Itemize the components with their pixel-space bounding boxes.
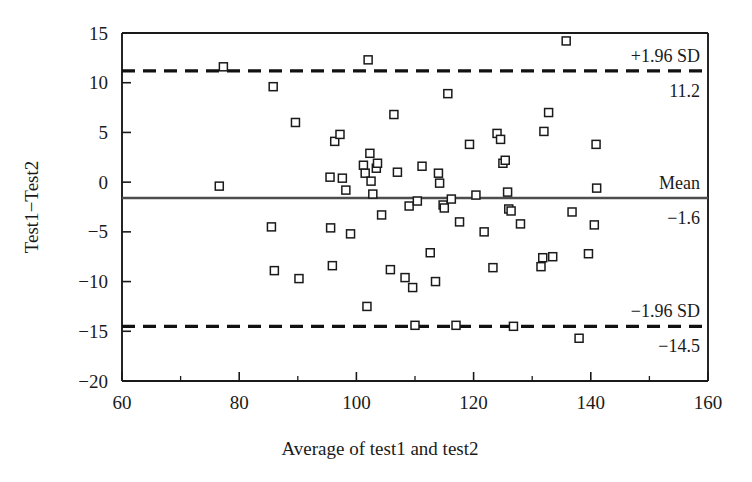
data-point <box>267 223 275 231</box>
data-point <box>593 184 601 192</box>
y-tick-label: 10 <box>89 72 108 93</box>
lower-limit-of-agreement-value: −14.5 <box>658 336 700 356</box>
data-point <box>390 111 398 119</box>
x-tick-label: 160 <box>694 392 723 413</box>
data-point <box>549 253 557 261</box>
data-point <box>540 127 548 135</box>
data-point <box>440 204 448 212</box>
data-point <box>418 162 426 170</box>
data-point <box>411 321 419 329</box>
data-point <box>592 140 600 148</box>
y-axis-title: Test1−Test2 <box>21 161 42 254</box>
mean-difference-label: Mean <box>659 173 700 193</box>
y-tick-label: 5 <box>99 122 109 143</box>
y-tick-label: 0 <box>99 172 109 193</box>
data-point <box>575 334 583 342</box>
data-point <box>347 230 355 238</box>
data-point <box>452 321 460 329</box>
data-point <box>409 284 417 292</box>
data-point <box>545 109 553 117</box>
x-tick-label: 120 <box>459 392 488 413</box>
y-tick-label: −15 <box>78 321 108 342</box>
data-point <box>366 149 374 157</box>
data-point <box>537 263 545 271</box>
data-point <box>472 191 480 199</box>
data-point <box>413 197 421 205</box>
data-point <box>374 159 382 167</box>
data-point <box>393 168 401 176</box>
data-point <box>436 179 444 187</box>
data-point <box>342 186 350 194</box>
upper-limit-of-agreement-label: +1.96 SD <box>631 46 700 66</box>
data-point <box>363 302 371 310</box>
data-point <box>219 63 227 71</box>
data-point <box>367 177 375 185</box>
x-tick-label: 140 <box>577 392 606 413</box>
y-axis-ticks: 151050−5−10−15−20 <box>78 23 131 392</box>
data-point <box>426 249 434 257</box>
data-point <box>584 250 592 258</box>
upper-limit-of-agreement-value: 11.2 <box>669 81 700 101</box>
data-point <box>497 135 505 143</box>
x-tick-label: 80 <box>230 392 249 413</box>
data-point <box>568 208 576 216</box>
y-tick-label: 15 <box>89 23 108 44</box>
data-point <box>507 207 515 215</box>
data-point <box>369 190 377 198</box>
data-point <box>480 228 488 236</box>
data-point <box>386 266 394 274</box>
data-point <box>361 169 369 177</box>
data-point <box>456 218 464 226</box>
data-point <box>539 254 547 262</box>
data-point <box>466 140 474 148</box>
y-tick-label: −10 <box>78 271 108 292</box>
data-point <box>562 37 570 45</box>
data-point <box>501 156 509 164</box>
bland-altman-chart: 151050−5−10−15−20 6080100120140160 +1.96… <box>0 0 752 482</box>
data-point <box>444 90 452 98</box>
data-point <box>291 118 299 126</box>
lower-limit-of-agreement-label: −1.96 SD <box>631 301 700 321</box>
data-point <box>215 182 223 190</box>
y-tick-label: −20 <box>78 371 108 392</box>
data-point <box>326 173 334 181</box>
data-point <box>509 322 517 330</box>
x-axis-title: Average of test1 and test2 <box>282 438 479 459</box>
data-point <box>378 211 386 219</box>
data-point <box>434 169 442 177</box>
plot-canvas: 151050−5−10−15−20 6080100120140160 +1.96… <box>0 0 752 482</box>
y-tick-label: −5 <box>88 221 108 242</box>
data-point <box>432 278 440 286</box>
data-point <box>401 274 409 282</box>
x-axis-ticks: 6080100120140160 <box>113 372 723 413</box>
data-point <box>328 262 336 270</box>
data-point <box>364 56 372 64</box>
data-point <box>489 264 497 272</box>
data-point <box>295 275 303 283</box>
scatter-points <box>215 37 600 342</box>
data-point <box>327 224 335 232</box>
x-tick-label: 100 <box>342 392 371 413</box>
data-point <box>359 161 367 169</box>
data-point <box>590 221 598 229</box>
data-point <box>269 83 277 91</box>
data-point <box>338 174 346 182</box>
mean-difference-value: −1.6 <box>667 208 700 228</box>
reference-line-labels: +1.96 SD11.2Mean−1.6−1.96 SD−14.5 <box>631 46 700 357</box>
data-point <box>504 188 512 196</box>
data-point <box>447 195 455 203</box>
x-tick-label: 60 <box>113 392 132 413</box>
data-point <box>516 220 524 228</box>
data-point <box>336 130 344 138</box>
data-point <box>405 202 413 210</box>
data-point <box>270 267 278 275</box>
